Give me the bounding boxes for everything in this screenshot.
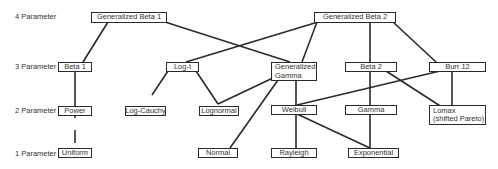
node-weibull: Weibull (271, 105, 317, 115)
node-exponential: Exponential (348, 148, 399, 158)
edge-logt-logcauchy (152, 71, 168, 95)
edge-gengamma-lognormal (218, 77, 275, 104)
edge-gb1-gengamma (165, 22, 290, 62)
node-generalized-gamma: Generalized Gamma (271, 62, 317, 81)
node-lognormal: Lognormal (199, 106, 239, 116)
edge-gb1-beta1 (83, 22, 108, 62)
row-label-3-parameter: 3 Parameter (15, 62, 56, 71)
row-label-4-parameter: 4 Parameter (15, 12, 56, 21)
edge-logt-lognormal (196, 71, 218, 104)
node-rayleigh: Rayleigh (271, 148, 317, 158)
edge-gb2-burr12 (393, 22, 436, 62)
node-generalized-beta-2: Generalized Beta 2 (314, 12, 396, 23)
node-power: Power (58, 106, 92, 116)
node-log-t: Log-t (166, 62, 199, 72)
edges-layer (0, 0, 498, 169)
node-log-cauchy: Log-Cauchy (125, 106, 166, 116)
node-lomax: Lomax (shifted Pareto) (429, 105, 486, 125)
node-generalized-gamma-label: Generalized Gamma (275, 63, 315, 80)
edge-burr12-weibull (297, 71, 440, 105)
node-lomax-label: Lomax (shifted Pareto) (433, 107, 484, 124)
row-label-2-parameter: 2 Parameter (15, 106, 56, 115)
node-uniform: Uniform (58, 148, 92, 158)
node-normal: Normal (198, 148, 238, 158)
node-beta-1: Beta 1 (58, 62, 92, 72)
edge-weibull-exponential (297, 114, 372, 149)
node-burr-12: Burr 12 (429, 62, 486, 72)
row-label-1-parameter: 1 Parameter (15, 149, 56, 158)
node-generalized-beta-1: Generalized Beta 1 (91, 12, 167, 23)
node-beta-2: Beta 2 (345, 62, 397, 72)
edge-gb2-gengamma (302, 22, 317, 62)
edge-gb2-logt (186, 22, 318, 62)
node-gamma: Gamma (345, 105, 397, 115)
